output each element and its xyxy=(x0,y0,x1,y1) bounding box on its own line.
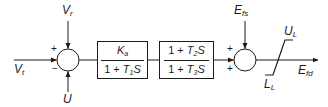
block2-num-prefix: 1 + xyxy=(168,44,187,56)
block-lead-lag: 1 + T2S 1 + T3S xyxy=(159,41,214,79)
vt-label: Vt xyxy=(14,63,24,77)
vt-subscript: t xyxy=(22,68,24,77)
summing-junction-2 xyxy=(234,49,256,71)
block1-numerator: Ka xyxy=(117,44,128,58)
efd-subscript: fd xyxy=(306,69,313,78)
ul-symbol: U xyxy=(284,24,293,38)
block2-den-s: S xyxy=(197,63,204,75)
efd-symbol: E xyxy=(298,63,306,77)
u-symbol: U xyxy=(63,92,72,106)
block1-den-prefix: 1 + xyxy=(104,63,123,75)
block2-num-s: S xyxy=(197,44,204,56)
vr-subscript: r xyxy=(70,9,73,18)
junction2-plus-sign-top: + xyxy=(227,44,233,54)
efs-symbol: E xyxy=(234,3,242,17)
efd-label: Efd xyxy=(298,64,313,78)
block2-fraction-bar xyxy=(164,60,210,61)
block2-denominator: 1 + T3S xyxy=(168,63,205,77)
block2-den-prefix: 1 + xyxy=(168,63,187,75)
vr-symbol: V xyxy=(62,3,70,17)
efs-label: Efs xyxy=(234,4,248,18)
ka-subscript: a xyxy=(124,50,128,57)
summing-junction-1 xyxy=(57,49,79,71)
t1-symbol: T xyxy=(123,63,130,75)
vt-symbol: V xyxy=(14,62,22,76)
efs-subscript: fs xyxy=(242,9,248,18)
block1-fraction-bar xyxy=(101,60,143,61)
limiter-lower-label: LL xyxy=(264,78,275,92)
limiter-upper-label: UL xyxy=(284,25,297,39)
block1-den-s: S xyxy=(133,63,140,75)
ll-symbol: L xyxy=(264,77,271,91)
ll-subscript: L xyxy=(271,83,275,92)
limiter-characteristic xyxy=(265,40,293,75)
vr-label: Vr xyxy=(62,4,73,18)
block1-denominator: 1 + T1S xyxy=(104,63,141,77)
ul-subscript: L xyxy=(293,30,297,39)
t2-symbol: T xyxy=(187,44,194,56)
junction2-plus-sign-bottom: + xyxy=(227,64,233,74)
junction1-plus-sign: + xyxy=(51,44,57,54)
t3-symbol: T xyxy=(187,63,194,75)
block-lead-gain: Ka 1 + T1S xyxy=(97,41,148,79)
junction1-minus-sign: − xyxy=(52,64,58,74)
block2-numerator: 1 + T2S xyxy=(168,44,205,58)
u-label: U xyxy=(63,93,72,105)
